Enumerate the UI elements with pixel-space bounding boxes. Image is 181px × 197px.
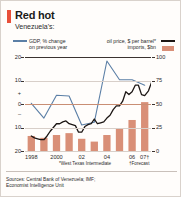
gdp-legend-swatch (13, 40, 27, 42)
y-axis-left-tick-label: 0 (3, 101, 21, 107)
y-axis-left-tick-label: – (3, 111, 21, 117)
y-axis-left-tick (21, 151, 24, 152)
y-axis-left-tick (21, 128, 24, 129)
y-axis-left-tick (21, 81, 24, 82)
divider (6, 171, 177, 172)
y-axis-left-tick-label: 20 (3, 54, 21, 60)
y-axis-left-tick-label: 10 (3, 77, 21, 83)
x-axis-tick-label: 2000 (47, 154, 67, 160)
x-axis-tick-label: 04 (97, 154, 117, 160)
oil-legend-label: oil price, $ per barrel* (107, 38, 156, 44)
y-axis-left-tick (21, 104, 24, 105)
sources-line2: Economist Intelligence Unit (6, 183, 64, 188)
y-axis-right-tick (152, 81, 155, 82)
x-axis-tick-label: 1998 (21, 154, 41, 160)
chart-card: Red hot Venezuela's: GDP, % change on pr… (0, 0, 181, 197)
gdp-legend-line1: GDP, % change (29, 38, 66, 44)
footnote-forecast: †Forecast (129, 161, 149, 166)
gridline (25, 104, 151, 105)
sources-line1: Sources: Central Bank of Venezuela; IMF; (6, 177, 95, 182)
gridline (25, 81, 151, 82)
x-axis-tick-label: 02 (72, 154, 92, 160)
y-axis-right-tick-label: 0 (156, 148, 159, 154)
sources-note: Sources: Central Bank of Venezuela; IMF;… (6, 177, 95, 189)
y-axis-right-tick (152, 57, 155, 58)
y-axis-right-tick-label: 75 (156, 77, 162, 83)
chart-legend: GDP, % change on previous year oil price… (1, 37, 181, 55)
y-axis-right-tick (152, 104, 155, 105)
gdp-legend-line2: on previous year (29, 44, 67, 50)
chart-subtitle: Venezuela's: (15, 23, 54, 30)
y-axis-right-tick (152, 128, 155, 129)
y-axis-left-tick-label: 10 (3, 124, 21, 130)
oil-legend-swatch (161, 40, 175, 42)
y-axis-left-tick-label: 20 (3, 148, 21, 154)
plot-area (25, 57, 151, 151)
y-axis-right-tick (152, 151, 155, 152)
gridline (25, 128, 151, 129)
y-axis-right-tick-label: 25 (156, 124, 162, 130)
right-legend-labels: oil price, $ per barrel* imports, $bn (107, 38, 156, 51)
accent-bar-icon (7, 10, 11, 23)
gridline (25, 151, 151, 152)
y-axis-right-tick-label: 50 (156, 101, 162, 107)
gridlines (25, 57, 151, 151)
page-title: Red hot (15, 9, 55, 21)
imports-legend-label: imports, $bn (127, 44, 156, 50)
y-axis-left-tick-label: + (3, 90, 21, 96)
gdp-legend-label: GDP, % change on previous year (29, 38, 67, 51)
x-axis-tick-label: 07† (135, 154, 155, 160)
y-axis-left-tick (21, 57, 24, 58)
footnote-wti: *West Texas Intermediate (59, 161, 111, 166)
imports-legend-swatch (162, 46, 174, 51)
y-axis-right-tick-label: 100 (156, 54, 165, 60)
gridline (25, 57, 151, 58)
